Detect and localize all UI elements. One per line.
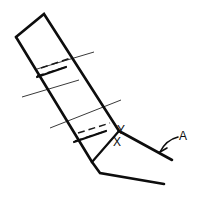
label-a: A [179, 129, 187, 143]
diagram-canvas: X Y A [0, 0, 206, 208]
label-y: Y [117, 123, 125, 137]
technical-drawing-figure: X Y A [0, 0, 206, 208]
label-x: X [113, 135, 121, 149]
